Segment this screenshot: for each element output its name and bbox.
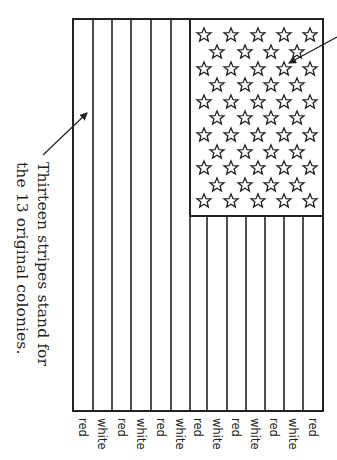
canton xyxy=(190,19,323,216)
star-icon xyxy=(264,145,278,158)
star-icon xyxy=(210,78,224,91)
stripe-label: red xyxy=(154,418,168,437)
star-icon xyxy=(277,28,291,41)
star-icon xyxy=(197,28,211,41)
star-icon xyxy=(197,128,211,141)
star-icon xyxy=(290,111,304,124)
star-icon xyxy=(251,95,265,108)
star-icon xyxy=(303,95,317,108)
star-icon xyxy=(277,95,291,108)
star-icon xyxy=(197,194,211,207)
stripe-label: red xyxy=(115,418,129,437)
stripe-label: red xyxy=(306,418,320,437)
star-icon xyxy=(210,145,224,158)
star-icon xyxy=(264,45,278,58)
star-icon xyxy=(210,178,224,191)
stripe-label: white xyxy=(173,418,187,449)
star-icon xyxy=(210,45,224,58)
stripes-arrow xyxy=(43,113,87,155)
star-icon xyxy=(251,128,265,141)
stripe-label: white xyxy=(286,418,300,449)
stripe-label: white xyxy=(248,418,262,449)
star-icon xyxy=(197,62,211,75)
stripe-label: red xyxy=(76,418,90,437)
long-stripes xyxy=(93,19,190,411)
stripe-label: red xyxy=(229,418,243,437)
stars-field xyxy=(197,28,317,207)
star-icon xyxy=(224,161,238,174)
star-icon xyxy=(197,161,211,174)
star-icon xyxy=(238,111,252,124)
star-icon xyxy=(264,78,278,91)
star-icon xyxy=(238,45,252,58)
star-icon xyxy=(303,62,317,75)
star-icon xyxy=(251,194,265,207)
star-icon xyxy=(264,111,278,124)
star-icon xyxy=(290,145,304,158)
stripe-label: white xyxy=(210,418,224,449)
star-icon xyxy=(277,62,291,75)
star-icon xyxy=(251,62,265,75)
caption-line-2: the 13 original colonies. xyxy=(13,162,31,354)
star-icon xyxy=(238,78,252,91)
star-icon xyxy=(277,161,291,174)
star-icon xyxy=(277,128,291,141)
star-icon xyxy=(290,178,304,191)
star-icon xyxy=(303,194,317,207)
stripe-label: red xyxy=(191,418,205,437)
stars-arrow xyxy=(289,37,337,63)
star-icon xyxy=(224,95,238,108)
star-icon xyxy=(224,62,238,75)
stripe-label: white xyxy=(95,418,109,449)
star-icon xyxy=(277,194,291,207)
star-icon xyxy=(251,161,265,174)
star-icon xyxy=(303,128,317,141)
star-icon xyxy=(290,78,304,91)
star-icon xyxy=(224,28,238,41)
star-icon xyxy=(264,178,278,191)
short-stripes xyxy=(207,216,303,411)
star-icon xyxy=(303,161,317,174)
stripe-label: white xyxy=(134,418,148,449)
star-icon xyxy=(210,111,224,124)
caption-line-1: Thirteen stripes stand for xyxy=(34,162,52,366)
star-icon xyxy=(224,128,238,141)
star-icon xyxy=(238,145,252,158)
star-icon xyxy=(303,28,317,41)
star-icon xyxy=(197,95,211,108)
star-icon xyxy=(251,28,265,41)
star-icon xyxy=(238,178,252,191)
stripe-label: red xyxy=(267,418,281,437)
star-icon xyxy=(224,194,238,207)
